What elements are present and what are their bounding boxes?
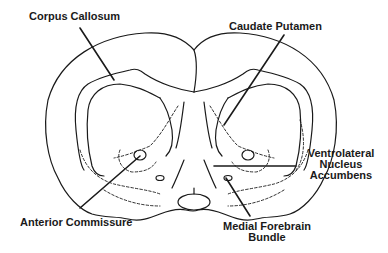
leader-corpus-callosum (80, 28, 114, 80)
lateral-ventricle-right (215, 98, 228, 156)
corpus-callosum-right-inner (228, 84, 301, 176)
label-medial-forebrain-bundle: Medial Forebrain Bundle (212, 221, 322, 243)
label-ventrolateral-nucleus-accumbens: Ventrolateral Nucleus Accumbens (296, 148, 386, 181)
septum-left (176, 102, 184, 148)
ventral-structure-left (172, 160, 184, 188)
ventral-structure-right (204, 160, 216, 188)
septum-right (204, 102, 212, 148)
label-mfb-line2: Bundle (212, 232, 322, 243)
corpus-callosum-left (75, 69, 194, 170)
outer-outline (46, 33, 337, 220)
brain-section-diagram: Corpus Callosum Caudate Putamen Ventrola… (0, 0, 388, 253)
label-vna-line3: Accumbens (296, 170, 386, 181)
mfb-left (156, 176, 164, 181)
label-caudate-putamen: Caudate Putamen (229, 21, 322, 32)
corpus-callosum-right (194, 69, 313, 170)
label-corpus-callosum: Corpus Callosum (29, 11, 120, 22)
leader-medial-forebrain-bundle (226, 178, 250, 216)
optic-chiasm (178, 194, 210, 210)
label-anterior-commissure: Anterior Commissure (20, 217, 132, 228)
corpus-callosum-left-inner (87, 84, 160, 176)
midline-fissure (194, 50, 196, 92)
lateral-ventricle-left (160, 98, 173, 156)
leader-lines (80, 28, 296, 216)
leader-anterior-commissure (80, 156, 140, 208)
